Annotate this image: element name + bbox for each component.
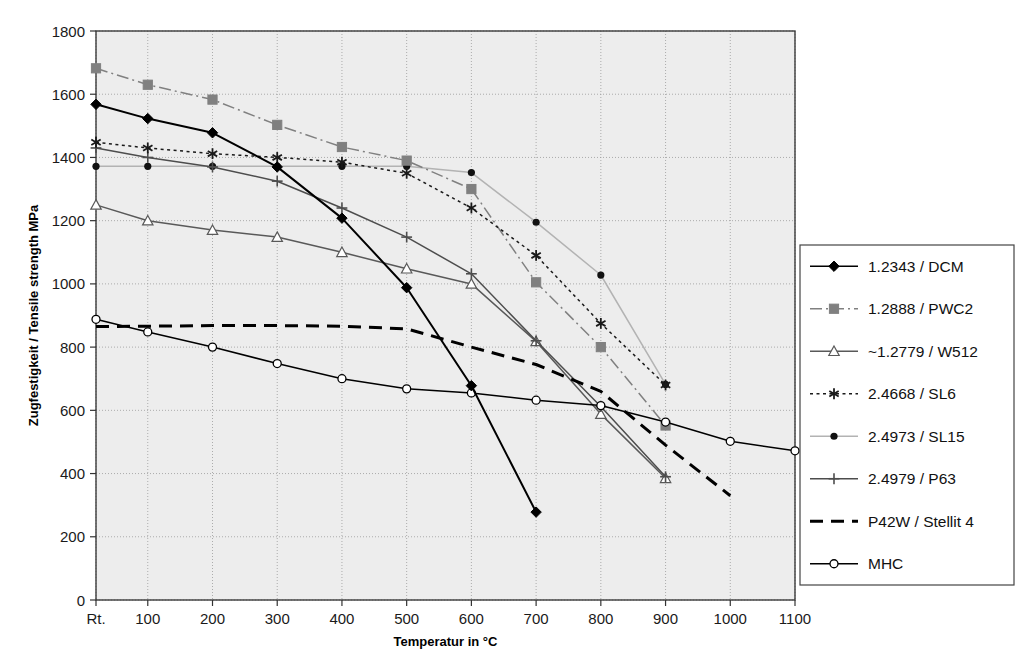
legend-marker-dot [830,433,837,440]
x-axis-tick-label: 800 [588,610,613,627]
legend-label: 1.2343 / DCM [868,258,964,275]
y-axis-tick-label: 0 [77,592,85,609]
data-point-dot [533,219,540,226]
legend-label: MHC [868,555,903,572]
y-axis-tick-label: 400 [60,465,85,482]
x-axis-tick-label: 600 [459,610,484,627]
data-point-square [467,184,476,193]
data-point-circle [338,375,346,383]
legend-marker-circle [830,560,838,568]
data-point-square [596,343,605,352]
data-point-circle [92,315,100,323]
data-point-square [91,64,100,73]
x-axis-tick-label: 500 [394,610,419,627]
legend-marker-square [829,304,838,313]
data-point-circle [662,418,670,426]
x-axis-tick-label: 900 [653,610,678,627]
data-point-square [402,156,411,165]
data-point-dot [468,169,475,176]
x-axis-tick-label: 1000 [714,610,747,627]
x-axis-tick-label: 700 [524,610,549,627]
data-point-circle [597,402,605,410]
y-axis-tick-label: 1600 [52,86,85,103]
data-point-dot [144,163,151,170]
plot-background [96,31,795,600]
legend-label: 2.4668 / SL6 [868,385,956,402]
legend-label: ~1.2779 / W512 [868,343,978,360]
y-axis-tick-label: 200 [60,528,85,545]
data-point-circle [726,437,734,445]
tensile-strength-chart: 020040060080010001200140016001800Zugfest… [0,0,1020,666]
data-point-circle [532,396,540,404]
data-point-square [337,142,346,151]
data-point-square [273,120,282,129]
data-point-circle [273,360,281,368]
y-axis-tick-label: 1800 [52,23,85,40]
data-point-dot [597,271,604,278]
legend-label: P42W / Stellit 4 [868,513,974,530]
x-axis-tick-label: 400 [329,610,354,627]
y-axis-tick-label: 1400 [52,149,85,166]
x-axis: Rt.10020030040050060070080090010001100 [86,600,811,627]
legend: 1.2343 / DCM1.2888 / PWC2~1.2779 / W5122… [800,245,1014,585]
data-point-circle [403,385,411,393]
y-axis: 020040060080010001200140016001800 [52,23,96,609]
x-axis-title: Temperatur in °C [394,634,499,649]
data-point-circle [209,343,217,351]
data-point-square [532,278,541,287]
x-axis-tick-label: 1100 [779,610,811,627]
data-point-square [208,95,217,104]
x-axis-tick-label: 300 [265,610,290,627]
x-axis-tick-label: Rt. [86,610,105,627]
legend-label: 1.2888 / PWC2 [868,300,973,317]
y-axis-tick-label: 600 [60,402,85,419]
x-axis-tick-label: 100 [135,610,160,627]
legend-label: 2.4979 / P63 [868,470,956,487]
y-axis-title: Zugfestigkeit / Tensile strength MPa [26,204,41,426]
data-point-circle [791,447,799,455]
legend-box [800,245,1014,585]
y-axis-tick-label: 1000 [52,275,85,292]
x-axis-tick-label: 200 [200,610,225,627]
data-point-dot [92,163,99,170]
y-axis-tick-label: 1200 [52,212,85,229]
y-axis-tick-label: 800 [60,339,85,356]
data-point-circle [144,328,152,336]
chart-canvas: 020040060080010001200140016001800Zugfest… [0,0,1020,666]
legend-label: 2.4973 / SL15 [868,428,965,445]
data-point-square [143,80,152,89]
